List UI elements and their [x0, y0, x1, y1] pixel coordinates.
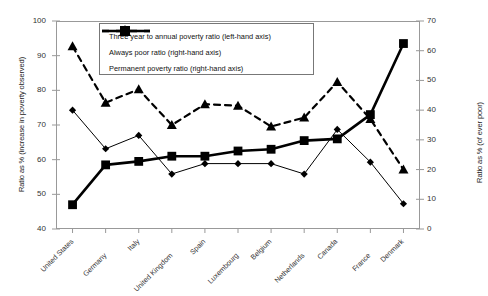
data-point-square	[234, 147, 243, 156]
legend-item-2: Permanent poverty ratio (right-hand axis…	[105, 60, 308, 76]
data-point-triangle	[398, 165, 408, 174]
data-point-diamond	[201, 160, 208, 167]
y-tick-label-right: 0	[427, 224, 451, 233]
data-point-square	[267, 145, 276, 154]
data-point-triangle	[134, 84, 144, 93]
y-tick-label-left: 70	[22, 120, 46, 129]
data-point-triangle	[68, 41, 78, 50]
data-point-square	[399, 39, 408, 48]
legend-label-1: Always poor ratio (right-hand axis)	[109, 48, 221, 57]
y-tick-label-right: 20	[427, 165, 451, 174]
y-tick-label-left: 40	[22, 224, 46, 233]
chart-legend: Three year to annual poverty ratio (left…	[99, 23, 314, 75]
y-tick-label-right: 10	[427, 194, 451, 203]
data-point-square	[101, 160, 110, 169]
data-point-triangle	[332, 77, 342, 86]
y-tick-label-right: 40	[427, 105, 451, 114]
legend-marker-triangle	[100, 24, 152, 38]
y-tick-label-left: 100	[22, 16, 46, 25]
data-point-square	[300, 136, 309, 145]
y-tick-label-left: 60	[22, 155, 46, 164]
data-point-square	[333, 134, 342, 143]
y-tick-label-right: 70	[427, 16, 451, 25]
y-tick-label-left: 90	[22, 51, 46, 60]
series-line-1	[73, 110, 404, 204]
data-point-square	[167, 152, 176, 161]
data-point-diamond	[267, 160, 274, 167]
y-tick-label-right: 30	[427, 135, 451, 144]
y-tick-label-right: 50	[427, 75, 451, 84]
legend-label-2: Permanent poverty ratio (right-hand axis…	[109, 64, 243, 73]
data-point-square	[201, 152, 210, 161]
legend-item-1: Always poor ratio (right-hand axis)	[105, 44, 308, 60]
data-point-square	[68, 200, 77, 209]
y-tick-label-left: 50	[22, 189, 46, 198]
data-point-triangle	[233, 101, 243, 110]
poverty-ratio-chart: Ratio as % (increase in poverty observed…	[0, 0, 488, 296]
y-tick-label-left: 80	[22, 85, 46, 94]
data-point-square	[134, 157, 143, 166]
y-tick-label-right: 60	[427, 46, 451, 55]
data-point-diamond	[301, 170, 308, 177]
data-point-diamond	[234, 160, 241, 167]
